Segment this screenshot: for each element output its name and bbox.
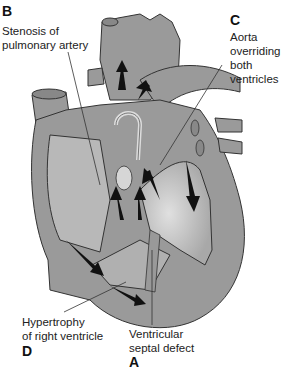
label-d-letter: D [22, 343, 32, 359]
label-c-line2: overriding [230, 44, 281, 58]
label-b-line1: Stenosis of [2, 24, 88, 38]
label-d-line1: Hypertrophy [22, 315, 103, 329]
label-a-letter: A [129, 354, 139, 370]
label-b-letter: B [2, 3, 12, 19]
label-b-text: Stenosis of pulmonary artery [2, 24, 88, 52]
label-c-letter: C [230, 12, 240, 28]
label-a-text: Ventricular septal defect [129, 327, 194, 355]
label-c-text: Aorta overriding both ventricles [230, 30, 281, 86]
label-d-line2: of right ventricle [22, 329, 103, 343]
label-b-line2: pulmonary artery [2, 38, 88, 52]
label-c-line4: ventricles [230, 72, 281, 86]
label-d-text: Hypertrophy of right ventricle [22, 315, 103, 343]
label-a-line2: septal defect [129, 341, 194, 355]
label-a-line1: Ventricular [129, 327, 194, 341]
label-c-line3: both [230, 58, 281, 72]
label-c-line1: Aorta [230, 30, 281, 44]
